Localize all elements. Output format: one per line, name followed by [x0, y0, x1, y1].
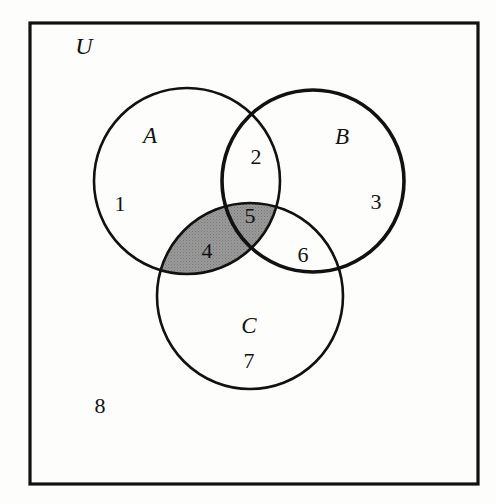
region-label-1: 1: [115, 193, 126, 215]
region-label-3: 3: [371, 191, 382, 213]
set-label-c: C: [241, 314, 256, 337]
venn-diagram-canvas: [0, 0, 496, 504]
venn-diagram-figure: U A B C 1 2 3 4 5 6 7 8: [0, 0, 496, 504]
set-label-a: A: [143, 124, 157, 147]
region-label-5: 5: [245, 205, 256, 227]
region-label-8: 8: [95, 395, 106, 417]
region-label-7: 7: [244, 350, 255, 372]
set-label-b: B: [335, 125, 349, 148]
set-circle-b: [222, 90, 404, 272]
region-label-2: 2: [251, 146, 262, 168]
region-label-6: 6: [298, 244, 309, 266]
universe-label: U: [75, 34, 92, 58]
region-label-4: 4: [202, 240, 213, 262]
